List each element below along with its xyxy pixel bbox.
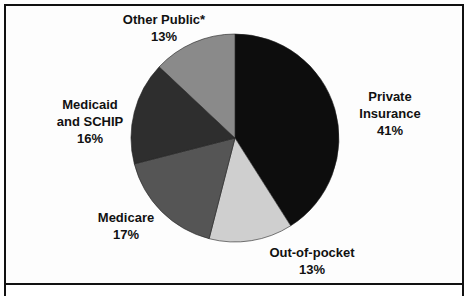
label-medicare-pct: 17% [86,226,166,243]
label-medicaid-schip: Medicaid and SCHIP 16% [50,96,130,147]
label-oop-name: Out-of-pocket [262,244,362,261]
pie-chart [0,0,469,296]
label-medicaid-name-1: Medicaid [50,96,130,113]
label-other-public-pct: 13% [118,28,210,45]
label-oop-pct: 13% [262,261,362,278]
label-other-public-name: Other Public* [118,11,210,28]
label-other-public: Other Public* 13% [118,11,210,45]
label-medicaid-name-2: and SCHIP [50,113,130,130]
label-out-of-pocket: Out-of-pocket 13% [262,244,362,278]
label-medicaid-pct: 16% [50,130,130,147]
label-private-pct: 41% [350,122,430,139]
label-private-name-1: Private [350,88,430,105]
label-private-insurance: Private Insurance 41% [350,88,430,139]
label-private-name-2: Insurance [350,105,430,122]
label-medicare-name: Medicare [86,209,166,226]
label-medicare: Medicare 17% [86,209,166,243]
